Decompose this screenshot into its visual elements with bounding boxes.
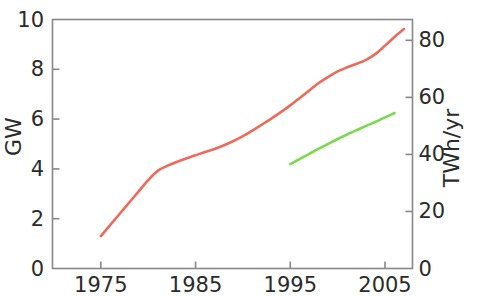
left-axis-title: GW xyxy=(3,117,25,156)
x-tick-label: 1985 xyxy=(169,275,222,296)
left-tick-label: 4 xyxy=(0,158,44,179)
x-tick-label: 2005 xyxy=(358,275,411,296)
x-tick-label: 1995 xyxy=(264,275,317,296)
right-tick-label: 80 xyxy=(419,30,446,51)
left-tick-label: 2 xyxy=(0,208,44,229)
chart-figure: 0246810 020406080 1975198519952005 GW TW… xyxy=(0,0,487,296)
right-axis-title: TWh/yr xyxy=(441,109,463,188)
plot-area xyxy=(0,0,487,296)
left-tick-label: 0 xyxy=(0,258,44,279)
right-tick-label: 20 xyxy=(419,201,446,222)
x-tick-label: 1975 xyxy=(74,275,127,296)
left-tick-label: 8 xyxy=(0,59,44,80)
right-tick-label: 0 xyxy=(419,258,432,279)
right-tick-label: 60 xyxy=(419,87,446,108)
left-tick-label: 10 xyxy=(0,9,44,30)
